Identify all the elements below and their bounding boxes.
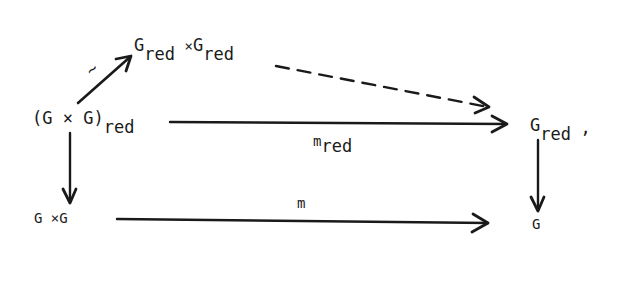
- m-label: m: [297, 196, 305, 210]
- arrow-left-down: [63, 133, 76, 203]
- m-red-label: mred: [313, 132, 352, 149]
- node-right-top-g: G: [530, 115, 540, 135]
- commutative-diagram: Gred ×Gred ~ (G × G)red mred Gred , G ×G…: [0, 0, 636, 282]
- node-left-sub: red: [104, 117, 135, 137]
- node-top-sub2: red: [203, 44, 234, 64]
- arrow-m: [117, 214, 488, 232]
- m-red-sub: red: [321, 136, 352, 156]
- node-top-g1: G: [134, 35, 144, 55]
- node-top: Gred ×Gred: [134, 37, 234, 54]
- node-left: (G × G)red: [32, 110, 134, 127]
- node-left-main: (G × G): [32, 108, 104, 128]
- node-right-top: Gred ,: [530, 117, 591, 134]
- arrow-m-red: [170, 116, 507, 132]
- node-right-top-sub: red: [540, 124, 571, 144]
- times-symbol: ×: [185, 38, 193, 54]
- arrow-dashed: [276, 66, 489, 113]
- node-bottom-left: G ×G: [34, 211, 68, 225]
- node-bottom-right: G: [532, 217, 540, 231]
- arrow-right-down: [531, 140, 544, 211]
- node-top-g2: G: [193, 35, 203, 55]
- node-top-sub1: red: [144, 44, 175, 64]
- comma: ,: [581, 118, 591, 138]
